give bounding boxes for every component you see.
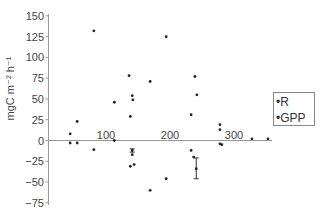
data-point-r (76, 142, 79, 145)
data-point-r (76, 120, 79, 123)
data-point-r (219, 128, 222, 131)
data-point-r (113, 139, 116, 142)
y-tick-label: 100 (26, 51, 44, 63)
y-axis-label: mgC m⁻² h⁻¹ (4, 57, 17, 121)
data-point-r (69, 132, 72, 135)
data-point-gpp (190, 149, 193, 152)
data-point-gpp (131, 149, 134, 152)
x-tick-label: 100 (97, 129, 115, 141)
data-point-gpp (195, 167, 198, 170)
data-point-r (165, 35, 168, 38)
y-tick-label: 0 (38, 135, 44, 147)
data-point-r (219, 123, 222, 126)
y-tick-label: −75 (25, 197, 44, 209)
x-tick-label: 200 (161, 129, 179, 141)
data-point-r (128, 74, 131, 77)
x-ticks: 100200300 (97, 129, 243, 141)
data-points (69, 29, 270, 191)
error-bars (130, 149, 199, 179)
data-point-gpp (149, 189, 152, 192)
data-point-r (251, 137, 254, 140)
data-point-r (92, 148, 95, 151)
data-point-r (129, 115, 132, 118)
data-point-gpp (129, 165, 132, 168)
data-point-r (113, 101, 116, 104)
y-tick-label: 125 (26, 31, 44, 43)
data-point-r (131, 94, 134, 97)
data-point-gpp (133, 163, 136, 166)
data-point-gpp (220, 143, 223, 146)
y-tick-label: −50 (25, 176, 44, 188)
legend-item-r: •R (276, 94, 314, 110)
legend: •R •GPP (273, 92, 315, 126)
y-tick-label: −25 (25, 155, 44, 167)
data-point-gpp (131, 153, 134, 156)
data-point-r (195, 93, 198, 96)
y-tick-label: 50 (32, 93, 44, 105)
data-point-r (190, 113, 193, 116)
data-point-r (149, 80, 152, 83)
data-point-r (194, 75, 197, 78)
y-tick-label: 75 (32, 72, 44, 84)
data-point-gpp (192, 156, 195, 159)
y-tick-label: 25 (32, 114, 44, 126)
data-point-r (92, 29, 95, 32)
data-point-r (131, 98, 134, 101)
data-point-gpp (165, 177, 168, 180)
legend-item-gpp: •GPP (276, 110, 314, 126)
y-tick-label: 150 (26, 10, 44, 22)
x-tick-label: 300 (225, 129, 243, 141)
y-ticks: 1501251007550250−25−50−75 (25, 10, 48, 209)
data-point-r (69, 142, 72, 145)
data-point-r (267, 137, 270, 140)
